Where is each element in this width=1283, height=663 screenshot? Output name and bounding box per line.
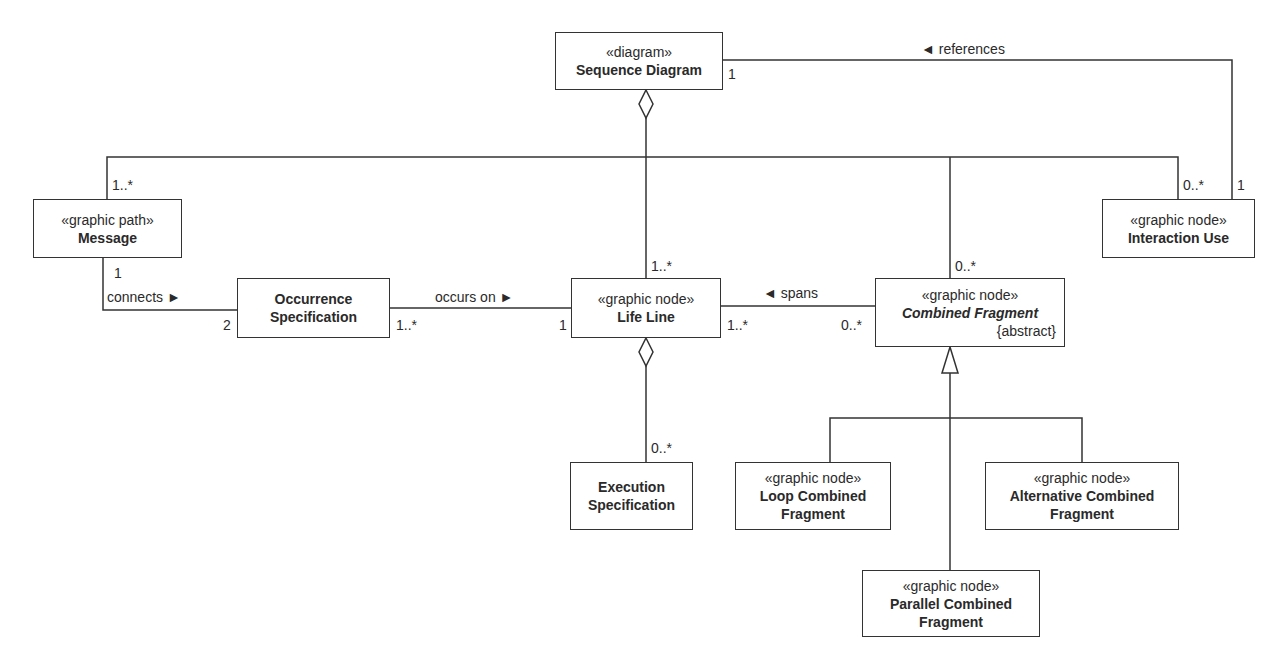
multiplicity-cf-top: 0..* — [955, 258, 976, 274]
message-node[interactable]: «graphic path» Message — [33, 199, 182, 258]
abstract-constraint: {abstract} — [997, 322, 1064, 340]
node-name-line-2: Fragment — [781, 505, 845, 523]
parallel-combined-fragment-node[interactable]: «graphic node» Parallel Combined Fragmen… — [862, 570, 1040, 637]
multiplicity-cf-left: 0..* — [841, 317, 862, 333]
multiplicity-os-right: 1..* — [396, 317, 417, 333]
loop-combined-fragment-node[interactable]: «graphic node» Loop Combined Fragment — [735, 462, 891, 530]
node-stereotype: «graphic path» — [61, 211, 154, 229]
node-stereotype: «diagram» — [606, 43, 672, 61]
node-name-line-2: Specification — [588, 496, 675, 514]
node-name: Message — [78, 229, 137, 247]
combined-fragment-node[interactable]: «graphic node» Combined Fragment {abstra… — [875, 278, 1065, 347]
node-stereotype: «graphic node» — [598, 290, 695, 308]
node-name-line-1: Alternative Combined — [1010, 487, 1155, 505]
node-name-line-1: Parallel Combined — [890, 595, 1012, 613]
aggregation-diamond-icon — [639, 338, 653, 366]
node-name: Life Line — [617, 308, 675, 326]
node-name-line-2: Fragment — [919, 613, 983, 631]
node-name-line-1: Execution — [598, 478, 665, 496]
references-label: ◄ references — [921, 41, 1005, 57]
node-name-line-1: Occurrence — [275, 290, 353, 308]
multiplicity-os-left: 2 — [223, 317, 231, 333]
sequence-diagram-node[interactable]: «diagram» Sequence Diagram — [555, 32, 723, 90]
multiplicity-ll-top: 1..* — [651, 258, 672, 274]
node-name: Sequence Diagram — [576, 61, 702, 79]
generalization-triangle-icon — [942, 347, 958, 373]
life-line-node[interactable]: «graphic node» Life Line — [571, 278, 721, 338]
multiplicity-sd-references: 1 — [728, 66, 736, 82]
node-name-line-1: Loop Combined — [760, 487, 867, 505]
multiplicity-ll-right: 1..* — [727, 317, 748, 333]
aggregation-diamond-icon — [639, 90, 653, 118]
occurrence-specification-node[interactable]: Occurrence Specification — [237, 278, 390, 338]
sd-message-bus — [107, 157, 1178, 199]
multiplicity-message-bottom: 1 — [114, 265, 122, 281]
multiplicity-es-top: 0..* — [651, 440, 672, 456]
node-stereotype: «graphic node» — [903, 577, 1000, 595]
node-stereotype: «graphic node» — [922, 286, 1019, 304]
node-stereotype: «graphic node» — [1034, 469, 1131, 487]
multiplicity-iu-top: 0..* — [1183, 177, 1204, 193]
interaction-use-node[interactable]: «graphic node» Interaction Use — [1102, 199, 1255, 258]
node-name-line-2: Specification — [270, 308, 357, 326]
references-association-line — [723, 60, 1232, 199]
node-name-line-2: Fragment — [1050, 505, 1114, 523]
multiplicity-ll-left: 1 — [559, 317, 567, 333]
occurs-on-label: occurs on ► — [435, 289, 513, 305]
alternative-combined-fragment-node[interactable]: «graphic node» Alternative Combined Frag… — [985, 462, 1179, 530]
node-name: Interaction Use — [1128, 229, 1229, 247]
spans-label: ◄ spans — [763, 285, 818, 301]
multiplicity-iu-references: 1 — [1237, 177, 1245, 193]
node-name: Combined Fragment — [902, 304, 1038, 322]
node-stereotype: «graphic node» — [1130, 211, 1227, 229]
generalization-branch — [830, 418, 1082, 462]
execution-specification-node[interactable]: Execution Specification — [570, 462, 693, 530]
multiplicity-message-top: 1..* — [112, 177, 133, 193]
connects-label: connects ► — [107, 289, 181, 305]
node-stereotype: «graphic node» — [765, 469, 862, 487]
